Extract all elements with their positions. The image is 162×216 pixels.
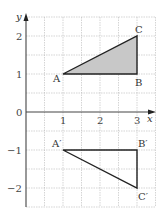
vertex-label-b: B <box>135 77 142 88</box>
vertex-label-a: A <box>52 73 61 84</box>
y-tick-1: 1 <box>16 69 22 80</box>
x-tick-3: 3 <box>134 115 140 126</box>
vertex-label-a-prime: A′ <box>51 138 62 149</box>
x-tick-1: 1 <box>60 115 66 126</box>
origin-label: 0 <box>16 107 22 118</box>
y-axis-arrow-icon <box>24 13 29 21</box>
y-tick-neg1: −1 <box>7 145 22 156</box>
vertex-label-c: C <box>135 24 143 35</box>
vertex-label-c-prime: C′ <box>138 191 149 202</box>
y-axis-label: y <box>15 11 22 22</box>
vertex-label-b-prime: B′ <box>138 138 148 149</box>
coordinate-diagram: y x 0 1 2 3 2 1 −1 −2 A B C A′ B′ C′ <box>0 0 162 216</box>
x-axis-label: x <box>147 113 153 124</box>
y-tick-2: 2 <box>16 31 22 42</box>
x-tick-2: 2 <box>97 115 103 126</box>
y-tick-neg2: −2 <box>7 183 22 194</box>
